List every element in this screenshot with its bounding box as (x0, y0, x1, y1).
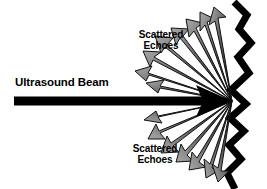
scattered-echoes-label-bottom: Scattered Echoes (122, 143, 188, 165)
scattered-echoes-top-line1: Scattered (139, 29, 184, 40)
ultrasound-beam (14, 85, 232, 117)
scattered-echoes-top-line2: Echoes (128, 40, 194, 51)
ultrasound-beam-label: Ultrasound Beam (15, 76, 109, 89)
scattered-echoes-label-top: Scattered Echoes (128, 29, 194, 51)
ultrasound-beam-label-text: Ultrasound Beam (15, 76, 109, 88)
scattered-echo-arrows-up (135, 7, 232, 101)
beam-shaft (14, 97, 204, 106)
scattered-echoes-bottom-line1: Scattered (133, 143, 178, 154)
scattered-echo-arrows-down (144, 101, 232, 182)
ultrasound-scattering-diagram: Ultrasound Beam Scattered Echoes Scatter… (0, 0, 267, 189)
scattered-echoes-bottom-line2: Echoes (122, 154, 188, 165)
